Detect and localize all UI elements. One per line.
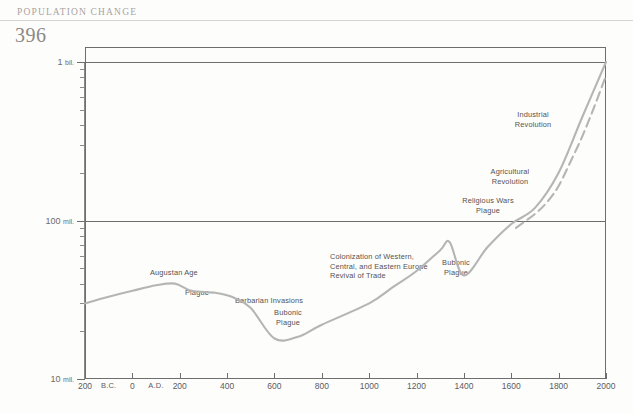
x-tick bbox=[132, 373, 133, 379]
y-tick-minor bbox=[80, 125, 85, 126]
y-tick-major bbox=[77, 379, 85, 380]
page-root: POPULATION CHANGE 396 1 bil.100 mil.10 m… bbox=[0, 0, 633, 413]
x-tick-label: 1400 bbox=[454, 381, 473, 391]
running-head: POPULATION CHANGE bbox=[17, 7, 137, 17]
chart-annotation: Augustan Age bbox=[150, 268, 198, 278]
y-tick-minor bbox=[80, 173, 85, 174]
x-tick bbox=[180, 373, 181, 379]
y-tick-minor bbox=[80, 97, 85, 98]
x-tick bbox=[369, 373, 370, 379]
chart-annotation: Plague bbox=[185, 288, 209, 298]
chart-plot-area bbox=[85, 47, 606, 379]
page-number: 396 bbox=[15, 24, 47, 47]
chart-annotation: Religious Wars Plague bbox=[462, 196, 514, 215]
x-tick bbox=[417, 373, 418, 379]
x-tick bbox=[606, 373, 607, 379]
x-tick-label: 1200 bbox=[407, 381, 426, 391]
y-tick-major bbox=[77, 62, 85, 63]
chart-annotation: Bubonic Plague bbox=[274, 308, 302, 327]
y-tick-label: 10 mil. bbox=[0, 374, 74, 384]
y-tick-minor bbox=[80, 303, 85, 304]
gridline-1-bil bbox=[85, 62, 606, 63]
x-tick-label: B.C. bbox=[101, 381, 116, 390]
x-tick-label: 1000 bbox=[360, 381, 379, 391]
y-tick-minor bbox=[80, 87, 85, 88]
x-tick bbox=[227, 373, 228, 379]
x-tick bbox=[559, 373, 560, 379]
x-tick-label: 1600 bbox=[502, 381, 521, 391]
x-tick-label: 200 bbox=[78, 381, 92, 391]
x-tick bbox=[85, 373, 86, 379]
chart-annotation: Industrial Revolution bbox=[515, 110, 551, 129]
y-tick-major bbox=[77, 221, 85, 222]
chart-annotation: Colonization of Western, Central, and Ea… bbox=[330, 252, 428, 281]
y-tick-minor bbox=[80, 145, 85, 146]
y-tick-minor bbox=[80, 245, 85, 246]
y-tick-minor bbox=[80, 69, 85, 70]
x-tick bbox=[274, 373, 275, 379]
y-tick-minor bbox=[80, 77, 85, 78]
x-tick-label: 600 bbox=[267, 381, 281, 391]
y-tick-label: 100 mil. bbox=[0, 216, 74, 226]
y-tick-minor bbox=[80, 284, 85, 285]
x-tick bbox=[464, 373, 465, 379]
x-tick-label: A.D. bbox=[148, 381, 163, 390]
y-tick-label: 1 bil. bbox=[0, 57, 74, 67]
header-rule bbox=[0, 20, 633, 21]
x-tick bbox=[322, 373, 323, 379]
chart-annotation: Barbarian Invasions bbox=[235, 296, 303, 306]
chart-annotation: Bubonic Plague bbox=[442, 258, 470, 277]
y-tick-minor bbox=[80, 256, 85, 257]
y-tick-minor bbox=[80, 268, 85, 269]
x-tick-label: 200 bbox=[173, 381, 187, 391]
y-tick-minor bbox=[80, 228, 85, 229]
x-tick-label: 0 bbox=[130, 381, 135, 391]
y-tick-minor bbox=[80, 110, 85, 111]
y-tick-minor bbox=[80, 331, 85, 332]
x-tick-label: 1800 bbox=[549, 381, 568, 391]
chart-annotation: Agricultural Revolution bbox=[491, 167, 530, 186]
x-tick bbox=[511, 373, 512, 379]
gridline-100-mil bbox=[85, 221, 606, 222]
x-tick-label: 2000 bbox=[597, 381, 616, 391]
x-tick-label: 400 bbox=[220, 381, 234, 391]
y-tick-minor bbox=[80, 236, 85, 237]
x-tick-label: 800 bbox=[315, 381, 329, 391]
